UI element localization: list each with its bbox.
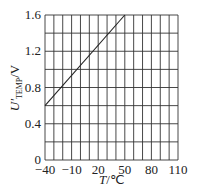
x-tick-label: −10 <box>61 162 81 177</box>
y-tick-label: 1.2 <box>25 43 41 58</box>
x-tick-label: 80 <box>145 162 158 177</box>
x-tick-label: −40 <box>35 162 55 177</box>
y-tick-label: 0.4 <box>25 116 42 131</box>
x-axis-label: T/℃ <box>99 172 125 187</box>
y-axis-label: U'TEMP/V <box>7 64 24 111</box>
y-tick-label: 0.8 <box>25 80 41 95</box>
x-tick-label: 110 <box>168 162 187 177</box>
y-axis-ticks: 00.40.81.21.6 <box>25 7 42 167</box>
temperature-voltage-chart: 00.40.81.21.6 −40−10205080110 T/℃ U'TEMP… <box>0 0 210 188</box>
y-tick-label: 1.6 <box>25 7 42 22</box>
data-line <box>45 15 125 106</box>
plot-grid <box>45 15 178 160</box>
